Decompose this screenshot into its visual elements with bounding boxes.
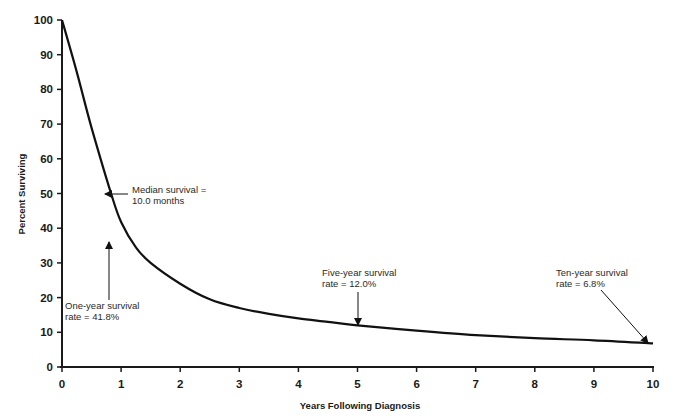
- x-tick-label: 3: [236, 378, 242, 390]
- x-tick-label: 5: [354, 378, 361, 390]
- x-tick-label: 8: [532, 378, 539, 390]
- x-tick-label: 2: [177, 378, 183, 390]
- x-axis: 012345678910 Years Following Diagnosis: [59, 367, 660, 411]
- y-tick-label: 20: [40, 292, 53, 304]
- annotation-five-year-line1: Five-year survival: [322, 267, 396, 278]
- annotation-one-year: One-year survival rate = 41.8%: [65, 242, 139, 322]
- annotation-median-line1: Median survival =: [132, 184, 207, 195]
- y-tick-label: 30: [40, 257, 53, 269]
- y-tick-label: 0: [47, 361, 53, 373]
- x-tick-label: 4: [295, 378, 302, 390]
- x-axis-title: Years Following Diagnosis: [300, 400, 420, 411]
- x-tick-label: 6: [413, 378, 419, 390]
- x-tick-label: 9: [591, 378, 597, 390]
- y-tick-label: 60: [40, 153, 53, 165]
- y-tick-label: 90: [40, 49, 53, 61]
- annotation-median: Median survival = 10.0 months: [105, 184, 207, 206]
- y-tick-label: 10: [40, 326, 53, 338]
- x-tick-label: 0: [59, 378, 65, 390]
- annotation-median-line2: 10.0 months: [132, 195, 185, 206]
- x-tick-label: 1: [118, 378, 125, 390]
- x-tick-label: 7: [472, 378, 478, 390]
- y-axis-title: Percent Surviving: [16, 153, 27, 234]
- y-tick-label: 50: [40, 188, 53, 200]
- annotation-one-year-line1: One-year survival: [65, 300, 139, 311]
- y-tick-label: 80: [40, 83, 53, 95]
- y-tick-label: 100: [34, 14, 53, 26]
- y-tick-label: 70: [40, 118, 53, 130]
- annotation-ten-year-line2: rate = 6.8%: [556, 278, 605, 289]
- survival-chart: 0102030405060708090100 Percent Surviving…: [0, 0, 678, 420]
- annotation-ten-year: Ten-year survival rate = 6.8%: [556, 267, 648, 343]
- annotation-five-year: Five-year survival rate = 12.0%: [322, 267, 396, 325]
- y-tick-label: 40: [40, 222, 53, 234]
- x-tick-label: 10: [647, 378, 660, 390]
- y-axis: 0102030405060708090100 Percent Surviving: [16, 14, 62, 373]
- annotation-five-year-line2: rate = 12.0%: [322, 278, 377, 289]
- annotation-ten-year-line1: Ten-year survival: [556, 267, 628, 278]
- annotation-one-year-line2: rate = 41.8%: [65, 311, 120, 322]
